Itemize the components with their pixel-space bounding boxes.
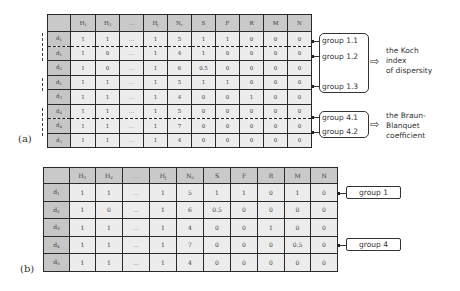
- panel-a-label: (a): [18, 133, 32, 144]
- cell: 0: [216, 104, 240, 119]
- group-bracket: [42, 78, 45, 91]
- cell: 1: [71, 90, 96, 105]
- group-label: group 1.1: [322, 36, 358, 45]
- braun-blanquet-note: the Braun- Blanquet coefficient: [386, 111, 426, 141]
- cell: 1: [70, 236, 96, 254]
- cell: 0: [264, 90, 288, 105]
- group-bracket: [42, 48, 45, 61]
- connector-line: [312, 86, 320, 87]
- cell: 0: [216, 133, 240, 148]
- cell: 1: [71, 46, 96, 61]
- cell: 6: [177, 201, 204, 219]
- table-row: d1 1 0 … 1 4 1 0 0 0 0: [48, 46, 312, 61]
- cell: 1: [192, 46, 216, 61]
- cell: 0: [192, 90, 216, 105]
- cell: 0: [231, 254, 258, 272]
- row-label: d4: [48, 119, 71, 134]
- cell: 1: [216, 75, 240, 90]
- col-header: Hj: [150, 168, 177, 184]
- cell: 1: [71, 104, 96, 119]
- cell: 4: [168, 46, 192, 61]
- cell: 1: [70, 254, 96, 272]
- row-label: d3: [48, 90, 71, 105]
- cell: 1: [70, 184, 96, 202]
- cell: 1: [150, 184, 177, 202]
- cell: 0.5: [204, 201, 231, 219]
- cell: 0: [311, 254, 338, 272]
- cell: 4: [177, 219, 204, 237]
- col-header: S: [204, 168, 231, 184]
- cell: 1: [70, 219, 96, 237]
- table-row: d1 1 1 … 1 5 1 1 0 1 0: [44, 184, 338, 202]
- cell: 1: [96, 133, 120, 148]
- cell: 1: [216, 32, 240, 47]
- header-row: H1 H2 … Hj Nc S F R M N: [44, 168, 338, 184]
- cell: …: [120, 46, 144, 61]
- cell: 1: [192, 75, 216, 90]
- col-header: Nc: [177, 168, 204, 184]
- cell: 0: [192, 104, 216, 119]
- col-header: H1: [70, 168, 96, 184]
- cell: …: [120, 90, 144, 105]
- header-row: H1 H2 … Hj Nc S F R M N: [48, 15, 312, 32]
- cell: 0.5: [192, 61, 216, 76]
- cell: 7: [177, 236, 204, 254]
- cell: 1: [96, 184, 123, 202]
- table-row: d4 1 1 … 1 7 0 0 0 0 0: [48, 119, 312, 134]
- connector-line: [312, 132, 320, 133]
- row-label: d5: [48, 133, 71, 148]
- cell: 0: [285, 254, 311, 272]
- cell: 0: [311, 184, 338, 202]
- table-row: d1 1 1 … 1 5 1 1 0 0 0: [48, 75, 312, 90]
- col-header: S: [192, 15, 216, 32]
- cell: 0: [258, 236, 285, 254]
- cell: 1: [144, 61, 168, 76]
- cell: 1: [144, 75, 168, 90]
- cell: 0: [264, 119, 288, 134]
- cell: 5: [168, 32, 192, 47]
- row-label: d1: [48, 46, 71, 61]
- cell: 0: [264, 32, 288, 47]
- cell: 0: [285, 219, 311, 237]
- cell: 1: [96, 119, 120, 134]
- col-header: N: [311, 168, 338, 184]
- cell: 0: [311, 219, 338, 237]
- cell: 1: [240, 90, 264, 105]
- cell: 1: [96, 104, 120, 119]
- cell: 0: [204, 254, 231, 272]
- cell: 1: [150, 236, 177, 254]
- row-label: d5: [44, 254, 70, 272]
- cell: 0: [231, 236, 258, 254]
- cell: 5: [168, 75, 192, 90]
- cell: 5: [168, 104, 192, 119]
- row-label: d4: [44, 236, 70, 254]
- cell: 4: [177, 254, 204, 272]
- cell: 1: [144, 133, 168, 148]
- cell: 1: [71, 32, 96, 47]
- cell: 7: [168, 119, 192, 134]
- cell: 1: [71, 75, 96, 90]
- col-header: F: [216, 15, 240, 32]
- corner-cell: [44, 168, 70, 184]
- cell: 0: [288, 75, 312, 90]
- row-label: d2: [44, 201, 70, 219]
- group-label: group 4.2: [322, 127, 358, 136]
- cell: 0: [288, 46, 312, 61]
- cell: 0: [204, 219, 231, 237]
- col-header: Hj: [144, 15, 168, 32]
- cell: 0: [288, 90, 312, 105]
- cell: 1: [96, 32, 120, 47]
- row-label: d1: [48, 32, 71, 47]
- col-header: …: [120, 15, 144, 32]
- cell: 0: [96, 61, 120, 76]
- cell: 1: [96, 236, 123, 254]
- cell: 0: [264, 133, 288, 148]
- cell: 0: [231, 219, 258, 237]
- col-header: N: [288, 15, 312, 32]
- cell: 0: [311, 201, 338, 219]
- col-header: Nc: [168, 15, 192, 32]
- cell: 0: [240, 119, 264, 134]
- group-label: group 1.3: [322, 82, 358, 91]
- cell: 0: [264, 75, 288, 90]
- table-row: d5 1 1 … 1 4 0 0 0 0 0: [44, 254, 338, 272]
